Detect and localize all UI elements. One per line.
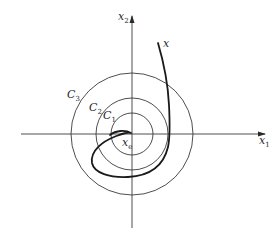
equilibrium-label: xe bbox=[122, 136, 132, 151]
circle-c3-label: C3 bbox=[67, 88, 80, 103]
trajectory-label: x bbox=[163, 37, 170, 50]
x2-axis-label: x2 bbox=[118, 10, 129, 25]
circle-c1-label: C1 bbox=[103, 109, 116, 124]
x1-axis-label: x1 bbox=[259, 134, 270, 149]
stability-diagram: x2 x1 x C3 C2 C1 xe bbox=[0, 0, 279, 242]
circle-c2-label: C2 bbox=[89, 101, 102, 116]
